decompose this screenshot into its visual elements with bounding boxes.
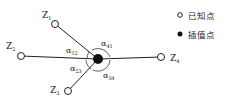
label-alpha-23: α23	[70, 64, 82, 74]
legend-interp-label: 插值点	[188, 30, 215, 40]
arc-a12	[87, 52, 89, 59]
label-z4: Z4	[170, 53, 179, 64]
label-alpha-41: α41	[101, 39, 113, 49]
diagram-canvas: Z1 Z2 Z3 Z4 α12 α41 α23 α34 已知点 插值点	[0, 0, 226, 101]
label-z1: Z1	[42, 10, 51, 21]
known-point-z2	[18, 53, 25, 60]
connecting-lines	[21, 24, 161, 91]
legend-interp-icon	[178, 32, 183, 37]
label-z3: Z3	[50, 85, 59, 96]
known-point-z3	[65, 88, 72, 95]
line-z4	[98, 57, 161, 59]
known-point-z4	[158, 54, 165, 61]
known-point-z1	[52, 21, 59, 28]
line-z2	[21, 56, 98, 59]
label-alpha-12: α12	[66, 46, 78, 56]
legend-known-icon	[178, 13, 183, 18]
interpolation-diagram: Z1 Z2 Z3 Z4 α12 α41 α23 α34 已知点 插值点	[0, 0, 226, 101]
label-z2: Z2	[6, 41, 15, 52]
legend: 已知点 插值点	[178, 11, 216, 40]
interpolation-point	[93, 54, 103, 64]
legend-known-label: 已知点	[188, 11, 215, 21]
label-alpha-34: α34	[103, 71, 115, 81]
